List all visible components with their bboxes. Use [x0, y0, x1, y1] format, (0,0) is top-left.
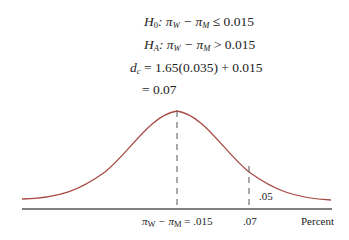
normal-curve-chart	[0, 0, 349, 240]
critical-tick-label: .07	[243, 215, 257, 227]
value: = .015	[182, 215, 213, 227]
subscript-w: W	[148, 219, 156, 229]
tail-area-label: .05	[259, 190, 273, 202]
subscript-m: M	[174, 219, 182, 229]
minus-pi: − π	[156, 215, 174, 227]
axis-title: Percent	[301, 215, 334, 227]
center-tick-label: πW − πM = .015	[142, 215, 213, 229]
